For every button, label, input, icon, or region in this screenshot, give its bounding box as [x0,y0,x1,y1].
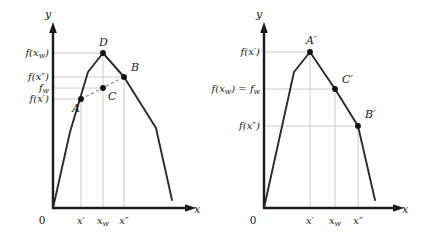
x-tick-label-x1: x′ [77,215,86,226]
point-label-B-prime: B′ [364,108,376,121]
point-A-prime [307,49,313,55]
point-label-C: C [108,90,117,103]
point-label-A-prime: A′ [305,34,317,47]
y-axis-label-left: y [44,8,52,21]
x-tick-label-x2-r: x″ [353,215,363,226]
y-tick-label-fxw-r: f(xw) = fw [211,83,261,96]
y-tick-label-fx1-r: f(x′) [240,46,261,57]
y-axis-label-right: y [255,8,263,21]
gridlines-left [53,53,124,208]
point-B [121,74,127,80]
point-label-B: B [130,61,139,74]
two-panel-figure: A C D B f(xw) f(x″) fw f(x′) x′ xw x″ y … [0,0,422,234]
point-label-A: A [71,102,80,115]
x-tick-label-xw-r: xw [329,215,342,228]
point-B-prime [355,123,361,129]
y-tick-label-fx1: f(x′) [29,93,50,104]
y-axis-arrow-right [260,22,268,33]
function-curve-left [53,53,172,208]
original-function-panel: A C D B f(xw) f(x″) fw f(x′) x′ xw x″ y … [0,0,211,234]
y-tick-label-fxw: f(xw) [24,47,49,60]
y-tick-label-fx2: f(x″) [27,71,49,82]
y-axis-arrow-left [49,22,57,33]
point-label-C-prime: C′ [342,73,353,86]
y-tick-label-fx2-r: f(x″) [238,120,260,131]
point-C [100,85,106,91]
x-axis-label-right: x [402,203,409,216]
x-tick-label-x1-r: x′ [306,215,315,226]
origin-label-left: 0 [39,214,46,226]
point-C-prime [332,86,338,92]
point-D [100,50,106,56]
point-label-D: D [98,36,108,49]
x-tick-label-x2: x″ [119,215,129,226]
x-tick-label-xw: xw [97,215,110,228]
transformed-function-panel: A′ C′ B′ f(x′) f(xw) = fw f(x″) x′ xw x″… [211,0,422,234]
x-axis-label-left: x [194,203,201,216]
origin-label-right: 0 [250,214,257,226]
